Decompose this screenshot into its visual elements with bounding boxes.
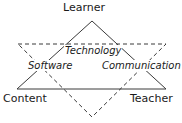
diagram-canvas: Learner Content Teacher Technology Softw…: [0, 0, 182, 123]
region-label-technology: Technology: [64, 45, 122, 56]
vertex-label-learner: Learner: [63, 2, 105, 14]
vertex-label-teacher: Teacher: [130, 93, 173, 105]
vertex-label-content: Content: [3, 93, 47, 105]
region-label-software: Software: [27, 60, 73, 71]
region-label-communication: Communication: [101, 60, 182, 71]
